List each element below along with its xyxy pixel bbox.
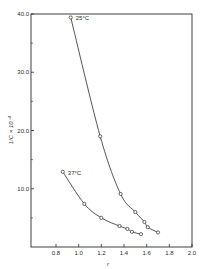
data-point-25c xyxy=(156,231,159,234)
data-point-37c xyxy=(139,233,142,236)
data-point-25c xyxy=(146,226,149,229)
data-point-37c xyxy=(61,170,64,173)
data-point-25c xyxy=(134,210,137,213)
data-point-25c xyxy=(69,16,72,19)
x-tick-label: 1.0 xyxy=(74,250,83,256)
x-tick-label: 1.6 xyxy=(142,250,151,256)
series-curves xyxy=(63,17,158,234)
y-tick-label: 40.0 xyxy=(17,11,29,17)
data-point-25c xyxy=(143,220,146,223)
x-tick-label: 0.8 xyxy=(52,250,61,256)
y-axis-ticks: 10.020.030.040.0 xyxy=(17,11,34,218)
series-label-37c: 37°C xyxy=(68,170,82,176)
curve-25c xyxy=(71,17,158,232)
series-labels: 25°C37°C xyxy=(68,15,90,175)
data-point-25c xyxy=(99,135,102,138)
x-tick-label: 1.4 xyxy=(120,250,129,256)
plot-border xyxy=(31,14,192,247)
series-markers xyxy=(61,16,159,236)
x-tick-label: 1.8 xyxy=(165,250,174,256)
curve-37c xyxy=(63,172,141,234)
y-tick-label: 10.0 xyxy=(17,186,29,192)
data-point-37c xyxy=(126,227,129,230)
chart: 10.020.030.040.0 0.81.01.21.41.61.82.0 2… xyxy=(0,0,204,269)
y-tick-label: 20.0 xyxy=(17,128,29,134)
series-label-25c: 25°C xyxy=(76,15,90,21)
data-point-37c xyxy=(83,202,86,205)
x-axis-label: r xyxy=(107,261,110,267)
data-point-25c xyxy=(119,192,122,195)
data-point-37c xyxy=(100,216,103,219)
plot-frame xyxy=(31,14,192,247)
x-tick-label: 1.2 xyxy=(97,250,106,256)
y-axis-label: 1/C × 10⁻⁴ xyxy=(8,115,14,144)
y-tick-label: 30.0 xyxy=(17,69,29,75)
chart-canvas: 10.020.030.040.0 0.81.01.21.41.61.82.0 2… xyxy=(0,0,204,269)
x-tick-label: 2.0 xyxy=(188,250,197,256)
x-axis-ticks: 0.81.01.21.41.61.82.0 xyxy=(52,244,197,256)
data-point-37c xyxy=(130,230,133,233)
data-point-37c xyxy=(118,224,121,227)
